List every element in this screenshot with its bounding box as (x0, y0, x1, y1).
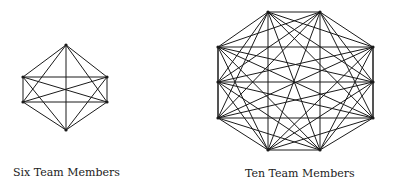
connection-line (23, 77, 66, 130)
team-member-node (216, 80, 219, 83)
connection-line (320, 12, 373, 47)
ten-member-complete-graph (216, 10, 374, 151)
connection-line (23, 45, 66, 102)
connection-line (218, 82, 320, 150)
connection-line (66, 77, 107, 130)
team-member-node (318, 10, 321, 13)
ten-team-members-label: Ten Team Members (245, 167, 355, 180)
connection-line (66, 45, 107, 102)
team-member-node (371, 116, 374, 119)
connection-line (66, 102, 107, 130)
connection-line (320, 12, 373, 118)
connection-line (23, 45, 66, 77)
team-member-node (21, 100, 24, 103)
team-member-node (216, 45, 219, 48)
communication-channels-diagram (0, 0, 394, 188)
team-member-node (105, 100, 108, 103)
connection-line (218, 12, 268, 47)
team-member-node (318, 148, 321, 151)
team-member-node (266, 148, 269, 151)
team-member-node (216, 116, 219, 119)
team-member-node (64, 128, 67, 131)
team-member-node (371, 45, 374, 48)
connection-line (23, 102, 66, 130)
team-member-node (64, 43, 67, 46)
six-member-complete-graph (21, 43, 108, 131)
team-member-node (21, 75, 24, 78)
team-member-node (105, 75, 108, 78)
six-team-members-label: Six Team Members (13, 166, 120, 179)
team-member-node (266, 10, 269, 13)
connection-line (218, 12, 320, 47)
connection-line (66, 45, 107, 77)
team-member-node (371, 80, 374, 83)
